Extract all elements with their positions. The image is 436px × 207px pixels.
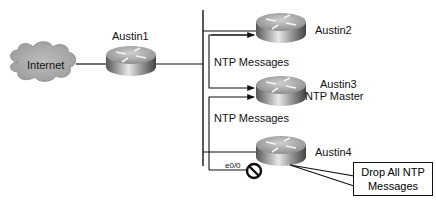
internet-label: Internet	[27, 59, 64, 71]
ntp-messages-label-2: NTP Messages	[214, 112, 289, 124]
austin3-label: Austin3	[320, 78, 357, 90]
callout-line-2: Messages	[358, 179, 428, 193]
ntp-messages-label-1: NTP Messages	[214, 56, 289, 68]
austin4-label: Austin4	[315, 146, 352, 158]
callout-pointer	[290, 165, 354, 186]
austin1-label: Austin1	[112, 30, 149, 42]
drop-ntp-callout: Drop All NTP Messages	[353, 162, 433, 196]
deny-icon	[247, 164, 261, 178]
callout-line-1: Drop All NTP	[358, 165, 428, 179]
interface-label: e0/0	[225, 160, 241, 172]
ntp-master-label: NTP Master	[305, 90, 363, 102]
router-austin3-icon	[256, 76, 306, 106]
router-austin2-icon	[256, 13, 306, 43]
router-austin1-icon	[106, 46, 156, 76]
austin2-label: Austin2	[315, 24, 352, 36]
router-austin4-icon	[256, 136, 306, 166]
